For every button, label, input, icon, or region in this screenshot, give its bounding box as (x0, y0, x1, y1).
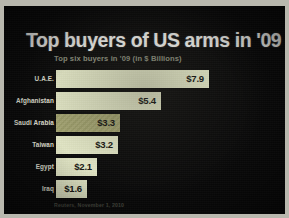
chart-screenshot: Top buyers of US arms in '09 Top six buy… (0, 0, 289, 218)
bar-afghanistan: $5.4 (56, 92, 161, 110)
bar-uae: $7.9 (56, 70, 209, 88)
bar-value-label: $1.6 (64, 180, 82, 198)
bar-value-label: $2.1 (74, 158, 92, 176)
bar-row: Egypt $2.1 (4, 158, 285, 176)
category-label: U.A.E. (4, 70, 54, 88)
bar-value-label: $3.3 (97, 114, 115, 132)
chart-title: Top buyers of US arms in '09 (26, 30, 270, 50)
bar-value-label: $7.9 (186, 70, 204, 88)
bar-row: Saudi Arabia $3.3 (4, 114, 285, 132)
bar-chart-plot-area: U.A.E. $7.9 Afghanistan $5.4 Saudi Arabi… (4, 68, 285, 200)
bar-value-label: $3.2 (95, 136, 113, 154)
chart-slide: Top buyers of US arms in '09 Top six buy… (4, 6, 285, 214)
chart-subtitle: Top six buyers in '09 (in $ Billions) (54, 54, 182, 63)
bar-row: U.A.E. $7.9 (4, 70, 285, 88)
bar-egypt: $2.1 (56, 158, 97, 176)
category-label: Taiwan (4, 136, 54, 154)
bar-taiwan: $3.2 (56, 136, 118, 154)
bar-saudi-arabia: $3.3 (56, 114, 120, 132)
bar-iraq: $1.6 (56, 180, 87, 198)
category-label: Egypt (4, 158, 54, 176)
source-attribution: Reuters, November 1, 2010 (54, 202, 124, 208)
bar-row: Iraq $1.6 (4, 180, 285, 198)
category-label: Iraq (4, 180, 54, 198)
category-label: Saudi Arabia (4, 114, 54, 132)
category-label: Afghanistan (4, 92, 54, 110)
bar-row: Taiwan $3.2 (4, 136, 285, 154)
bar-row: Afghanistan $5.4 (4, 92, 285, 110)
bar-value-label: $5.4 (138, 92, 156, 110)
